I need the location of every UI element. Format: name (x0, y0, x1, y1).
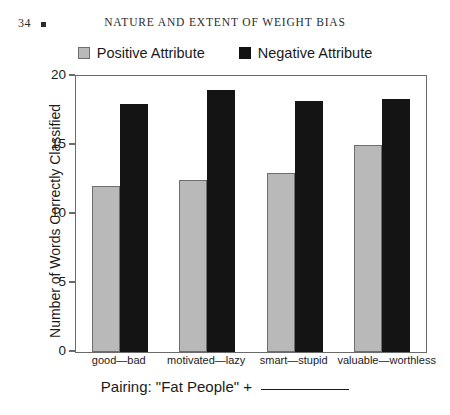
legend-swatch-negative-icon (239, 47, 251, 59)
x-axis-title-blank (261, 379, 349, 390)
bar-group (76, 76, 164, 352)
legend-label-positive: Positive Attribute (97, 45, 205, 61)
bar-negative (295, 101, 323, 352)
bar-positive (354, 145, 382, 352)
running-head-title: NATURE AND EXTENT OF WEIGHT BIAS (0, 16, 450, 28)
legend-swatch-positive-icon (78, 47, 90, 59)
bars-layer (76, 76, 426, 352)
plot-area (75, 75, 427, 353)
running-head: 34 NATURE AND EXTENT OF WEIGHT BIAS (0, 16, 450, 32)
x-axis-title-text: Pairing: "Fat People" + (101, 378, 256, 395)
x-axis-label: motivated—lazy (163, 354, 251, 366)
bar-positive (179, 180, 207, 353)
bar-negative (207, 90, 235, 352)
bar-group (339, 76, 427, 352)
chart-legend: Positive Attribute Negative Attribute (0, 45, 450, 61)
x-axis-title: Pairing: "Fat People" + (0, 378, 450, 395)
bar-negative (382, 99, 410, 352)
bar-group (251, 76, 339, 352)
bar-group (164, 76, 252, 352)
legend-item-negative: Negative Attribute (239, 45, 372, 61)
bar-positive (267, 173, 295, 352)
bar-negative (120, 104, 148, 352)
y-axis-title: Number of Words Correctly Classified (47, 81, 63, 361)
y-axis-title-wrap: Number of Words Correctly Classified (0, 75, 20, 351)
x-axis-label: good—bad (75, 354, 163, 366)
legend-label-negative: Negative Attribute (258, 45, 372, 61)
x-axis-label: smart—stupid (250, 354, 338, 366)
legend-item-positive: Positive Attribute (78, 45, 205, 61)
x-axis-labels: good—badmotivated—lazysmart—stupidvaluab… (75, 354, 425, 370)
x-axis-label: valuable—worthless (338, 354, 426, 366)
bar-positive (92, 186, 120, 352)
